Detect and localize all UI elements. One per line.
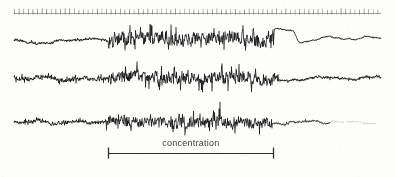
trace-chart-canvas — [0, 0, 395, 177]
figure-panel: concentration — [0, 0, 395, 177]
